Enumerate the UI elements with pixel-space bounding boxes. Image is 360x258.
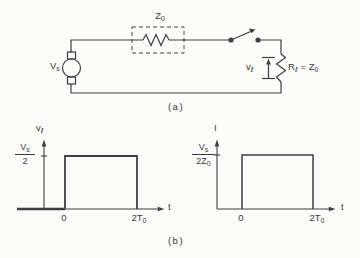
load-resistor-label-base: R [288, 61, 295, 72]
source-top-terminal [68, 52, 76, 59]
switch-blade-arrow [249, 29, 256, 34]
circuit-diagram [63, 27, 286, 93]
current-time-axis-label: t [341, 202, 344, 212]
equals-sign: = [300, 61, 306, 72]
voltage-den-base: 2 [22, 156, 27, 166]
switch [229, 29, 260, 42]
current-den-sub: 0 [207, 160, 211, 167]
voltage-x-axis-arrow [158, 207, 165, 212]
switch-blade [231, 31, 253, 41]
voltage-time-axis-label: t [168, 202, 171, 212]
load-resistor [277, 54, 286, 82]
voltage-pulse-plot [17, 140, 165, 212]
caption-a: (a) [168, 102, 184, 112]
impedance-label-sub: 0 [161, 15, 165, 22]
current-level-denominator: 2Z0 [192, 155, 215, 167]
figure-page: Z0 Vs vℓ Rℓ = Z0 (a) vℓ Vs 2 0 2T0 t I V… [0, 0, 360, 258]
voltage-y-axis-arrow [42, 140, 47, 147]
switch-contact-right [256, 38, 260, 42]
load-voltage-label-sub: ℓ [251, 66, 254, 74]
current-level-fraction: Vs 2Z0 [192, 142, 215, 167]
load-resistor-label-sub: ℓ [295, 66, 298, 74]
voltage-axis-label: vℓ [36, 123, 44, 135]
series-impedance-resistor [143, 35, 169, 46]
voltage-pulse [65, 156, 137, 209]
current-end-tick-label: 2T0 [310, 213, 325, 224]
voltage-end-tick-label: 2T0 [132, 213, 147, 224]
current-pulse [242, 155, 313, 209]
load-resistor-label: Rℓ = Z0 [288, 62, 318, 74]
source-label-sub: s [56, 65, 60, 72]
source-symbol [63, 59, 81, 77]
load-voltage-label: vℓ [246, 62, 254, 74]
source-label: Vs [50, 61, 60, 72]
voltage-origin-tick-label: 0 [61, 213, 66, 223]
current-end-base: 2T [310, 212, 321, 223]
voltage-level-denominator: 2 [15, 155, 35, 167]
caption-b: (b) [168, 236, 184, 246]
current-pulse-plot [214, 140, 336, 212]
current-num-sub: s [205, 146, 209, 153]
voltage-end-base: 2T [132, 212, 143, 223]
current-origin-tick-label: 0 [238, 213, 243, 223]
current-den-base: 2Z [196, 156, 207, 166]
current-y-axis-arrow [215, 140, 220, 147]
voltage-level-numerator: Vs [15, 142, 35, 155]
load-value-sub: 0 [314, 66, 318, 73]
figure-line-art [0, 0, 360, 258]
voltage-level-fraction: Vs 2 [15, 142, 35, 167]
voltage-num-sub: s [26, 146, 30, 153]
voltage-end-sub: 0 [143, 217, 147, 224]
current-end-sub: 0 [321, 217, 325, 224]
current-axis-label: I [214, 123, 217, 133]
source-bottom-terminal [68, 77, 76, 84]
impedance-label: Z0 [155, 11, 165, 22]
current-x-axis-arrow [329, 207, 336, 212]
current-level-numerator: Vs [192, 142, 215, 155]
voltage-axis-label-sub: ℓ [41, 127, 44, 135]
voltage-arrow-marker [262, 58, 275, 79]
